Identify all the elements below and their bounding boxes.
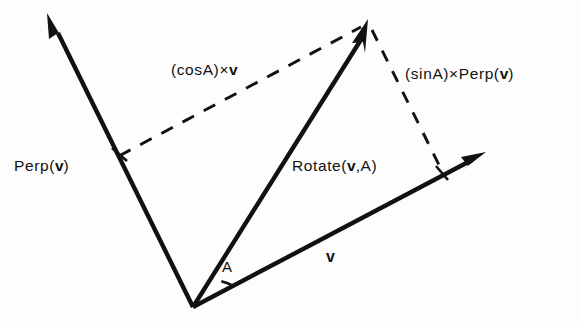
- vector-v-shaft: [193, 160, 472, 307]
- label-sina-suffix: ): [508, 65, 514, 82]
- vector-v: [193, 152, 486, 307]
- label-rotate-prefix: Rotate(: [292, 157, 347, 174]
- label-cosa-vector: v: [229, 61, 238, 78]
- label-sina-times-perp-v: (sinA)×Perp(v): [405, 66, 514, 82]
- label-perp-v: Perp(v): [14, 158, 69, 174]
- angle-arc: [221, 281, 234, 286]
- label-perp-v-vector: v: [55, 157, 64, 174]
- label-perp-v-suffix: ): [64, 157, 70, 174]
- vector-rotation-diagram: Perp(v) (cosA)×v (sinA)×Perp(v) Rotate(v…: [0, 0, 579, 325]
- label-rotate-suffix: ,A): [356, 157, 378, 174]
- dashed-sina-component: [372, 30, 443, 173]
- label-v-vector: v: [326, 249, 335, 265]
- label-sina-prefix: (sinA)×Perp(: [405, 65, 500, 82]
- vector-perp-v-arrowhead: [47, 13, 65, 43]
- diagram-canvas: [0, 0, 579, 325]
- dashed-cosa-component: [119, 27, 361, 156]
- label-rotate-v-a: Rotate(v,A): [292, 158, 377, 174]
- label-perp-v-prefix: Perp(: [14, 157, 55, 174]
- label-angle-a: A: [222, 259, 232, 274]
- label-cosa-prefix: (cosA)×: [171, 61, 229, 78]
- label-rotate-vector: v: [347, 157, 356, 174]
- label-sina-vector: v: [500, 65, 509, 82]
- label-cosa-times-v: (cosA)×v: [171, 62, 238, 78]
